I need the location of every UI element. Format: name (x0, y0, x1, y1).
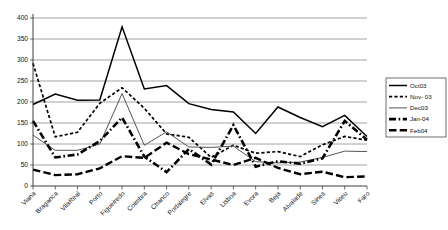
y-tick-label: 400 (17, 14, 28, 21)
y-tick-label: 150 (17, 119, 28, 126)
x-category-label: Evora (242, 190, 259, 207)
legend-label: Nov- 03 (410, 93, 432, 100)
legend-label: Oct03 (410, 82, 427, 89)
x-category-label: Braganca (34, 190, 60, 216)
y-tick-label: 50 (21, 161, 29, 168)
x-category-label: Viseu (332, 190, 349, 207)
y-tick-label: 0 (24, 182, 28, 189)
chart-canvas: 050100150200250300350400 VianaBragancaVi… (0, 0, 448, 230)
chart-legend: Oct03Nov- 03Dec03Jan-04Feb04 (386, 78, 446, 137)
x-axis-tickmarks (33, 186, 367, 190)
series-line-oct03 (33, 27, 367, 137)
x-category-label: Alvalade (281, 190, 304, 213)
x-category-label: Porto (87, 190, 103, 206)
y-tick-label: 100 (17, 140, 28, 147)
x-category-label: Portalegre (166, 190, 193, 217)
legend-label: Dec03 (410, 104, 428, 111)
legend-label: Jan-04 (410, 115, 429, 122)
x-category-label: Chanco (149, 190, 170, 211)
y-gridlines (30, 18, 367, 186)
y-tick-label: 250 (17, 77, 28, 84)
y-tick-label: 350 (17, 35, 28, 42)
y-tick-label: 200 (17, 98, 28, 105)
x-category-label: Elvas (198, 189, 215, 206)
x-category-label: Lisboa (218, 190, 237, 209)
y-tick-label: 300 (17, 56, 28, 63)
x-category-label: Figueiredo (99, 190, 127, 218)
x-category-label: Sines (310, 189, 327, 206)
x-category-label: Coimbra (125, 190, 148, 213)
x-category-label: Beja (267, 190, 282, 205)
line-chart-figure: 050100150200250300350400 VianaBragancaVi… (0, 0, 448, 230)
x-category-label: VilaReal (59, 189, 82, 212)
legend-label: Feb04 (410, 127, 428, 134)
series-line-nov-03 (33, 63, 367, 157)
x-axis-category-labels: VianaBragancaVilaRealPortoFigueiredoCoim… (20, 189, 371, 217)
y-axis-tick-labels: 050100150200250300350400 (17, 14, 28, 189)
x-category-label: Viana (20, 190, 37, 207)
x-category-label: Faro (356, 190, 371, 205)
